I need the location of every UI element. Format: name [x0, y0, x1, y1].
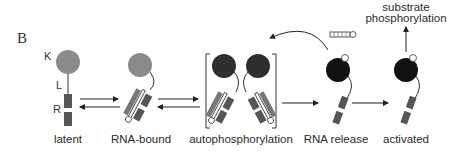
recycle-arrow: [270, 31, 328, 50]
equilibrium-arrows: [80, 99, 120, 107]
rna-bound-state: [120, 53, 154, 127]
kinase-domain: [56, 50, 80, 74]
rna-binding-domain: [64, 94, 72, 108]
kinase-domain: [212, 54, 236, 78]
stage-label-activated: activated: [383, 133, 429, 145]
pkr-activation-diagram: B K L R: [0, 0, 449, 153]
autophosphorylation-state: [203, 54, 278, 128]
phosphate-icon: [410, 55, 417, 62]
stage-label-latent: latent: [54, 133, 83, 145]
kinase-domain: [246, 54, 270, 78]
panel-label: B: [17, 30, 27, 46]
stage-label-rna-release: RNA release: [304, 133, 369, 145]
equilibrium-arrows: [158, 99, 200, 107]
kinase-domain: [128, 53, 152, 77]
rna-binding-label: R: [53, 103, 61, 115]
activated-state: [394, 27, 420, 125]
stage-label-autophosphorylation: autophosphorylation: [189, 133, 293, 145]
latent-state: K L R: [44, 50, 80, 126]
kinase-domain-label: K: [44, 50, 52, 62]
released-rna: [330, 32, 356, 38]
linker-label: L: [56, 79, 62, 91]
stage-label-rna-bound: RNA-bound: [111, 133, 171, 145]
rna-release-state: [326, 55, 352, 125]
rna-binding-domain: [64, 112, 72, 126]
phosphate-icon: [342, 55, 349, 62]
output-label-line2: phosphorylation: [365, 12, 446, 24]
